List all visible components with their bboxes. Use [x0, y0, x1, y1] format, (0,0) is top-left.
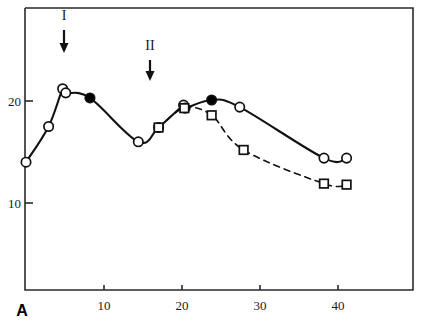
- panel-letter: A: [16, 302, 28, 319]
- marker-square-open: [320, 179, 329, 188]
- marker-square-open: [180, 104, 189, 113]
- x-tick-label-10: 10: [98, 298, 111, 313]
- chart-figure: 20 10 10 20 30 40 A I II: [0, 0, 424, 328]
- arrow-I-label: I: [62, 8, 67, 23]
- x-tick-label-20: 20: [176, 298, 189, 313]
- marker-circle-open: [44, 122, 53, 131]
- marker-circle-open: [134, 137, 143, 146]
- marker-circle-open: [342, 153, 351, 162]
- y-tick-label-10: 10: [8, 196, 21, 211]
- marker-circle-open: [21, 158, 30, 167]
- marker-circle-filled: [207, 95, 216, 104]
- marker-circle-filled: [85, 93, 94, 102]
- y-tick-label-20: 20: [8, 94, 21, 109]
- marker-circle-open: [61, 88, 70, 97]
- scatter-line-chart: 20 10 10 20 30 40 A I II: [0, 0, 424, 328]
- marker-square-open: [342, 180, 351, 189]
- marker-circle-open: [235, 102, 244, 111]
- arrow-II-label: II: [145, 38, 155, 53]
- x-tick-label-30: 30: [254, 298, 267, 313]
- marker-circle-open: [319, 153, 328, 162]
- marker-square-open: [207, 111, 216, 120]
- marker-square-open: [239, 146, 248, 155]
- marker-square-open: [154, 123, 163, 132]
- x-tick-label-40: 40: [332, 298, 345, 313]
